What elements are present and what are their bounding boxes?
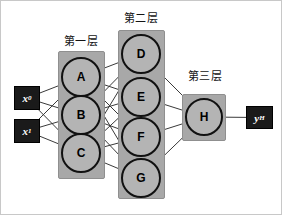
node-b[interactable]: B (61, 95, 101, 135)
node-c[interactable]: C (61, 133, 101, 173)
output-box-yh[interactable]: yH (246, 106, 273, 129)
input-box-x0[interactable]: x0 (14, 86, 40, 110)
output-label-subscript: H (259, 114, 264, 122)
node-f[interactable]: F (121, 117, 161, 157)
node-a[interactable]: A (61, 57, 101, 97)
layer-caption-3: 第三层 (182, 70, 228, 83)
input-label-subscript: 1 (28, 127, 32, 135)
node-h[interactable]: H (185, 98, 223, 136)
layer-caption-1: 第一层 (58, 35, 104, 48)
input-box-x1[interactable]: x1 (14, 119, 40, 143)
diagram-canvas: 第一层 第二层 第三层 ABCDEFGHx0x1yH (0, 0, 282, 215)
input-label-subscript: 0 (28, 94, 32, 102)
node-d[interactable]: D (121, 34, 161, 74)
node-e[interactable]: E (121, 77, 161, 117)
layer-caption-2: 第二层 (118, 12, 164, 25)
node-g[interactable]: G (121, 158, 161, 198)
